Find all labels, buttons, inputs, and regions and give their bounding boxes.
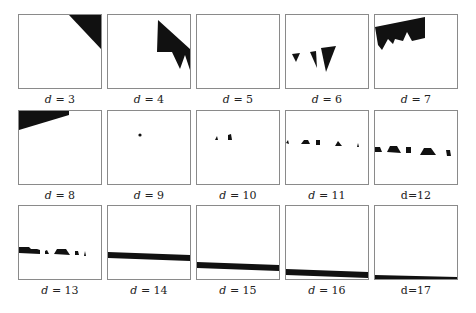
mask-shape (286, 15, 368, 88)
panel-label-d4: d = 4 (107, 93, 191, 107)
mask-shape (19, 206, 101, 279)
mask-shape (286, 206, 368, 279)
panel-label-d11: d = 11 (285, 189, 369, 203)
panel-label-d3: d = 3 (18, 93, 102, 107)
panel-d12 (374, 110, 458, 185)
label-variable: d (45, 189, 52, 202)
mask-shape (375, 206, 457, 279)
panel-label-d7: d = 7 (374, 93, 458, 107)
mask-shape (19, 15, 101, 88)
panel-d13 (18, 205, 102, 280)
panel-d15 (196, 205, 280, 280)
panel-d10 (196, 110, 280, 185)
panel-label-d10: d = 10 (196, 189, 280, 203)
label-variable: d (219, 189, 226, 202)
panel-label-d13: d = 13 (18, 284, 102, 298)
panel-label-d9: d = 9 (107, 189, 191, 203)
panel-label-d16: d = 16 (285, 284, 369, 298)
mask-shape (197, 15, 279, 88)
panel-d4 (107, 14, 191, 89)
mask-shape (19, 111, 101, 184)
mask-shape (108, 15, 190, 88)
panel-d17 (374, 205, 458, 280)
label-variable: d (45, 93, 52, 106)
mask-shape (375, 111, 457, 184)
panel-label-d8: d = 8 (18, 189, 102, 203)
label-variable: d (41, 284, 48, 297)
label-variable: d (223, 93, 230, 106)
panel-d6 (285, 14, 369, 89)
label-variable: d (308, 284, 315, 297)
panel-label-d17: d=17 (374, 284, 458, 298)
panel-d14 (107, 205, 191, 280)
label-variable: d (308, 189, 315, 202)
panel-label-d12: d=12 (374, 189, 458, 203)
mask-shape (375, 15, 457, 88)
mask-shape (108, 206, 190, 279)
panel-d16 (285, 205, 369, 280)
panel-label-d15: d = 15 (196, 284, 280, 298)
mask-shape (286, 111, 368, 184)
panel-d8 (18, 110, 102, 185)
panel-d11 (285, 110, 369, 185)
label-variable: d (134, 93, 141, 106)
label-variable: d (134, 189, 141, 202)
panel-label-d5: d = 5 (196, 93, 280, 107)
mask-shape (108, 111, 190, 184)
label-variable: d (130, 284, 137, 297)
mask-shape (197, 111, 279, 184)
label-variable: d (219, 284, 226, 297)
label-variable: d (312, 93, 319, 106)
panel-d5 (196, 14, 280, 89)
panel-d7 (374, 14, 458, 89)
panel-label-d6: d = 6 (285, 93, 369, 107)
panel-d3 (18, 14, 102, 89)
panel-label-d14: d = 14 (107, 284, 191, 298)
mask-shape (197, 206, 279, 279)
panel-d9 (107, 110, 191, 185)
label-variable: d (401, 93, 408, 106)
